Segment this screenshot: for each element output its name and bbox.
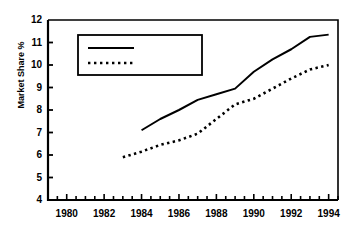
plot-area <box>0 0 355 237</box>
legend-frame <box>78 35 202 75</box>
chart-figure: Market Share % 4 5 6 7 8 9 10 11 12 1980… <box>0 0 355 237</box>
legend-box <box>78 35 202 75</box>
series-line-tesco <box>123 65 329 157</box>
